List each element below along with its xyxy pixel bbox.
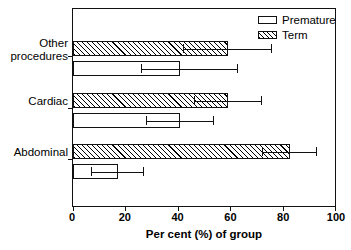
x-tick-label-0: 0 [52, 211, 92, 223]
x-tick-label-100: 100 [316, 211, 351, 223]
bar-abdominal-term [73, 144, 290, 159]
y-axis-label-cardiac: Cardiac [0, 95, 68, 108]
open-rect-swatch-icon [258, 16, 277, 24]
x-tick-label-60: 60 [210, 211, 250, 223]
y-axis-label-other-procedures: Other procedures [0, 37, 68, 63]
x-tick-label-80: 80 [263, 211, 303, 223]
legend-item-term: Term [258, 28, 334, 41]
legend-label-term: Term [282, 29, 308, 41]
y-tick-cardiac [68, 108, 73, 109]
y-tick-abdominal [68, 159, 73, 160]
legend-item-premature: Premature [258, 13, 334, 26]
legend-label-premature: Premature [282, 14, 336, 26]
x-tick-label-20: 20 [105, 211, 145, 223]
x-axis-title: Per cent (%) of group [72, 228, 336, 240]
y-tick-other-procedures [68, 56, 73, 57]
plot-frame: Premature Term [72, 8, 336, 207]
hatched-rect-swatch-icon [258, 31, 277, 39]
y-axis-label-abdominal: Abdominal [0, 146, 68, 159]
x-tick-label-40: 40 [158, 211, 198, 223]
bar-chart: Other procedures Cardiac Abdominal [0, 0, 351, 250]
legend: Premature Term [258, 13, 334, 43]
